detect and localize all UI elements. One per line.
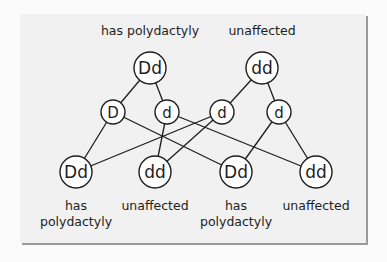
node-label: Dd (224, 162, 248, 182)
gamete-node-g3: d (210, 100, 234, 124)
offspring-phenotype-label-line2: polydactyly (200, 214, 273, 229)
node-label: Dd (138, 58, 162, 78)
parent-phenotype-label: unaffected (228, 23, 295, 38)
gamete-node-g2: d (155, 100, 179, 124)
offspring-node-o4: dd (300, 156, 332, 188)
labels: has polydactylyunaffectedhaspolydactylyu… (40, 23, 350, 229)
offspring-node-o2: dd (139, 156, 171, 188)
node-label: Dd (64, 162, 88, 182)
offspring-phenotype-label-line2: polydactyly (40, 214, 113, 229)
offspring-phenotype-label: has (65, 198, 87, 213)
node-label: d (162, 104, 172, 122)
node-label: D (107, 104, 119, 122)
node-label: d (274, 104, 284, 122)
offspring-phenotype-label: has (225, 198, 247, 213)
node-label: dd (251, 58, 273, 78)
offspring-node-o3: Dd (220, 156, 252, 188)
nodes: DdddDdddDdddDddd (60, 52, 332, 188)
genetic-cross-diagram: DdddDdddDdddDddd has polydactylyunaffect… (0, 0, 387, 262)
offspring-node-o1: Dd (60, 156, 92, 188)
offspring-phenotype-label: unaffected (121, 198, 188, 213)
node-label: dd (144, 162, 166, 182)
node-label: d (217, 104, 227, 122)
parent-node-p1: Dd (134, 52, 166, 84)
parent-node-p2: dd (246, 52, 278, 84)
parent-phenotype-label: has polydactyly (101, 23, 200, 38)
gamete-node-g1: D (101, 100, 125, 124)
node-label: dd (305, 162, 327, 182)
gamete-node-g4: d (267, 100, 291, 124)
offspring-phenotype-label: unaffected (282, 198, 349, 213)
